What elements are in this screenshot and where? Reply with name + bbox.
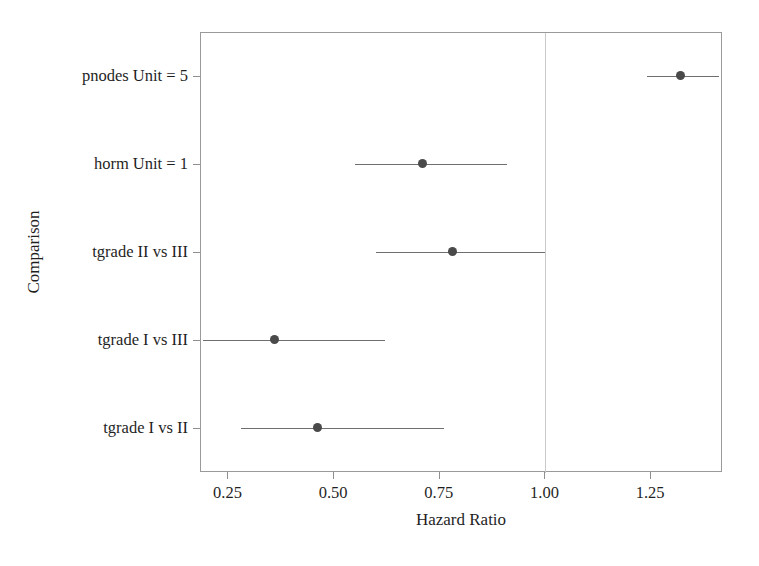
y-axis-tick bbox=[193, 252, 200, 253]
interval-row bbox=[201, 420, 721, 438]
point-estimate-marker bbox=[448, 247, 457, 256]
interval-row bbox=[201, 244, 721, 262]
y-axis-tick-label: tgrade I vs III bbox=[0, 331, 188, 348]
interval-row bbox=[201, 156, 721, 174]
x-axis-tick-label: 0.75 bbox=[394, 483, 484, 502]
interval-row bbox=[201, 68, 721, 86]
y-axis-tick-label: tgrade II vs III bbox=[0, 243, 188, 260]
x-axis-tick-label: 0.50 bbox=[288, 483, 378, 502]
y-axis-tick bbox=[193, 76, 200, 77]
x-axis-tick bbox=[333, 472, 334, 479]
x-axis-tick bbox=[650, 472, 651, 479]
x-axis-tick-label: 1.25 bbox=[605, 483, 695, 502]
interval-row bbox=[201, 332, 721, 350]
forest-plot-figure: Comparison pnodes Unit = 5horm Unit = 1t… bbox=[0, 0, 759, 566]
y-axis-tick-label: pnodes Unit = 5 bbox=[0, 67, 188, 84]
confidence-interval-line bbox=[203, 340, 385, 341]
x-axis-tick bbox=[439, 472, 440, 479]
point-estimate-marker bbox=[676, 71, 685, 80]
confidence-interval-line bbox=[241, 428, 444, 429]
y-axis-tick-label: horm Unit = 1 bbox=[0, 155, 188, 172]
confidence-interval-line bbox=[376, 252, 545, 253]
plot-area bbox=[200, 32, 722, 472]
y-axis-tick-label: tgrade I vs II bbox=[0, 419, 188, 436]
x-axis-tick bbox=[544, 472, 545, 479]
confidence-interval-line bbox=[355, 164, 507, 165]
point-estimate-marker bbox=[270, 335, 279, 344]
x-axis-tick-label: 0.25 bbox=[182, 483, 272, 502]
x-axis-tick bbox=[227, 472, 228, 479]
x-axis-tick-label: 1.00 bbox=[499, 483, 589, 502]
point-estimate-marker bbox=[313, 423, 322, 432]
y-axis-tick bbox=[193, 428, 200, 429]
x-axis-title: Hazard Ratio bbox=[200, 510, 722, 530]
y-axis-tick bbox=[193, 340, 200, 341]
point-estimate-marker bbox=[418, 159, 427, 168]
y-axis-tick bbox=[193, 164, 200, 165]
